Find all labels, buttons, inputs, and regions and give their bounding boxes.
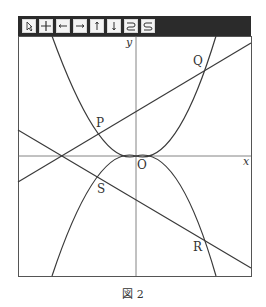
origin-label: O	[137, 158, 147, 172]
line-pq	[18, 43, 251, 182]
point-label-q: Q	[193, 54, 203, 68]
graph-canvas[interactable]	[0, 0, 266, 307]
x-axis-label: x	[243, 155, 249, 168]
parabola-upward	[52, 36, 216, 157]
parabola-downward	[52, 155, 216, 276]
point-label-r: R	[193, 240, 202, 254]
y-axis-label: y	[126, 36, 132, 49]
point-label-p: P	[96, 116, 104, 130]
line-sr	[18, 130, 251, 268]
point-label-s: S	[97, 182, 105, 196]
figure-caption: 図 2	[0, 285, 266, 301]
